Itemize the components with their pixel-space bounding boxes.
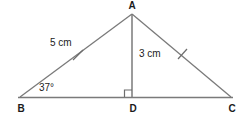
vertex-label-a: A [128,0,135,11]
triangle-figure-svg: A B D C 5 cm 3 cm 37° [0,0,241,125]
right-angle-square-icon [125,90,133,97]
angle-b-measure-label: 37° [39,82,54,93]
vertex-label-b: B [17,103,24,114]
altitude-ad-length-label: 3 cm [139,48,161,59]
geometry-diagram: A B D C 5 cm 3 cm 37° [0,0,241,125]
vertex-label-c: C [228,103,235,114]
vertex-label-d: D [129,103,136,114]
congruence-tick-ab-icon [73,50,83,60]
segment-ab [20,14,132,97]
side-ab-length-label: 5 cm [50,37,72,48]
